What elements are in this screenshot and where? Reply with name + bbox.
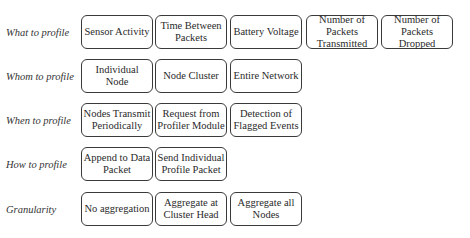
- row-label-how: How to profile: [6, 147, 82, 181]
- box-sensor-activity: Sensor Activity: [81, 15, 153, 49]
- box-send-individual-profile-packet: Send Individual Profile Packet: [155, 147, 227, 181]
- row-label-granularity: Granularity: [6, 192, 82, 226]
- box-no-aggregation: No aggregation: [81, 192, 153, 226]
- row-label-whom: Whom to profile: [6, 59, 82, 93]
- box-nodes-transmit-periodically: Nodes Transmit Periodically: [81, 103, 153, 137]
- row-label-what: What to profile: [6, 15, 82, 49]
- box-packets-dropped: Number of Packets Dropped: [381, 15, 453, 49]
- box-aggregate-cluster-head: Aggregate at Cluster Head: [155, 192, 227, 226]
- box-aggregate-all-nodes: Aggregate all Nodes: [230, 192, 302, 226]
- box-entire-network: Entire Network: [230, 59, 302, 93]
- box-time-between-packets: Time Between Packets: [155, 15, 227, 49]
- box-detection-flagged-events: Detection of Flagged Events: [230, 103, 302, 137]
- box-request-from-profiler: Request from Profiler Module: [155, 103, 227, 137]
- box-node-cluster: Node Cluster: [155, 59, 227, 93]
- box-packets-transmitted: Number of Packets Transmitted: [306, 15, 378, 49]
- box-append-to-data-packet: Append to Data Packet: [81, 147, 153, 181]
- row-label-when: When to profile: [6, 103, 82, 137]
- box-battery-voltage: Battery Voltage: [230, 15, 302, 49]
- box-individual-node: Individual Node: [81, 59, 153, 93]
